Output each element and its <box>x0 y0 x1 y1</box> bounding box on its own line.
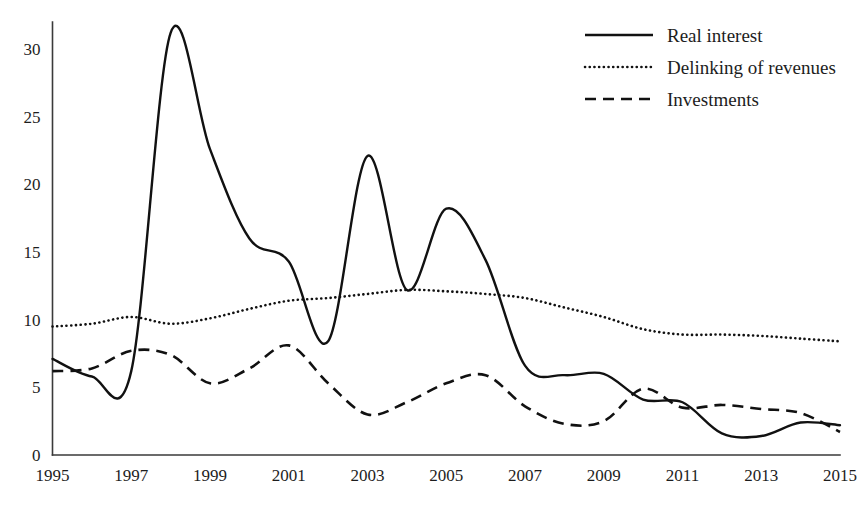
series-line-real-interest <box>53 26 841 438</box>
series-line-delinking-of-revenues <box>53 290 841 342</box>
y-tick-label: 20 <box>24 175 41 194</box>
x-tick-label: 1995 <box>36 466 70 485</box>
legend-label: Investments <box>667 89 759 110</box>
x-tick-label: 1997 <box>114 466 149 485</box>
series-line-investments <box>53 345 841 432</box>
legend-label: Delinking of revenues <box>667 57 836 78</box>
x-tick-label: 2005 <box>429 466 463 485</box>
chart-legend: Real interestDelinking of revenuesInvest… <box>585 25 836 110</box>
x-tick-label: 1999 <box>193 466 227 485</box>
x-tick-label: 2011 <box>666 466 699 485</box>
legend-label: Real interest <box>667 25 763 46</box>
y-tick-label: 15 <box>24 243 41 262</box>
y-axis-tick-labels: 051015202530 <box>24 40 41 465</box>
y-tick-label: 5 <box>32 378 41 397</box>
x-tick-label: 2001 <box>272 466 306 485</box>
series-lines <box>53 26 841 438</box>
x-tick-label: 2015 <box>823 466 857 485</box>
line-chart: 051015202530 199519971999200120032005200… <box>0 0 861 510</box>
y-tick-label: 0 <box>32 446 41 465</box>
x-tick-label: 2007 <box>508 466 543 485</box>
x-axis-tick-labels: 1995199719992001200320052007200920112013… <box>36 466 858 485</box>
x-tick-label: 2013 <box>744 466 778 485</box>
x-tick-label: 2009 <box>587 466 621 485</box>
y-tick-label: 25 <box>24 108 41 127</box>
y-tick-label: 30 <box>24 40 41 59</box>
y-tick-label: 10 <box>24 311 41 330</box>
chart-container: 051015202530 199519971999200120032005200… <box>0 0 861 510</box>
x-tick-label: 2003 <box>351 466 385 485</box>
